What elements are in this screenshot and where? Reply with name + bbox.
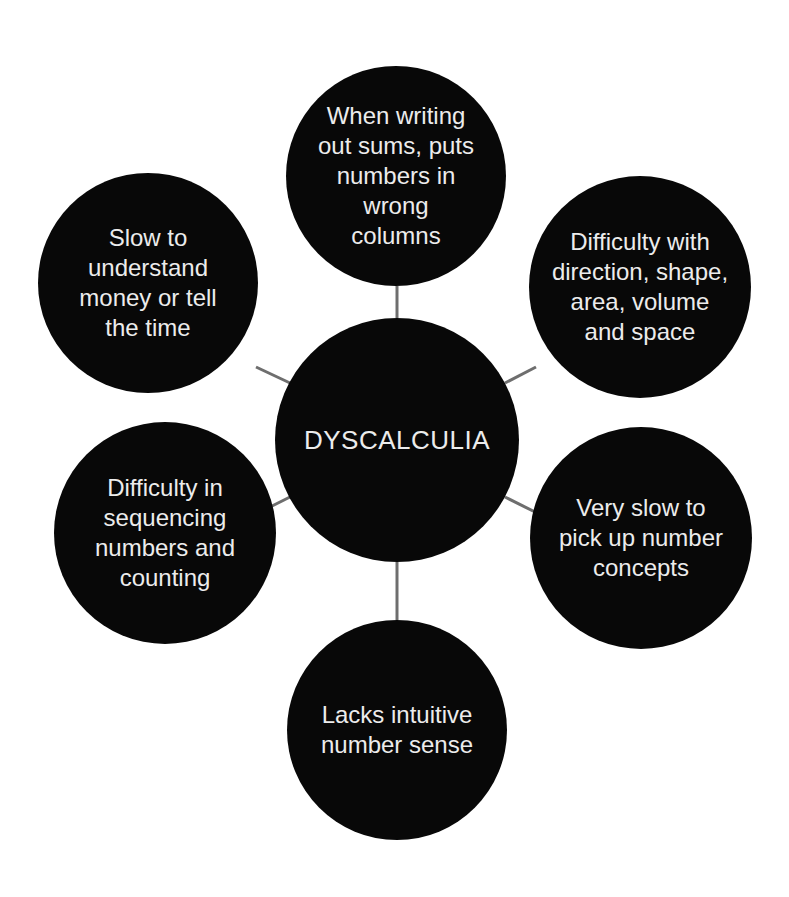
center-node-dyscalculia: DYSCALCULIA <box>275 318 519 562</box>
node-wrong-columns: When writing out sums, puts numbers in w… <box>286 66 506 286</box>
node-label: Lacks intuitive number sense <box>321 700 473 760</box>
node-label: Very slow to pick up number concepts <box>559 493 723 583</box>
node-sequencing-counting: Difficulty in sequencing numbers and cou… <box>54 422 276 644</box>
node-label: Slow to understand money or tell the tim… <box>79 223 216 343</box>
connector-upper-left <box>256 367 290 383</box>
node-number-sense: Lacks intuitive number sense <box>287 620 507 840</box>
center-node-label: DYSCALCULIA <box>304 425 490 455</box>
node-label: Difficulty with direction, shape, area, … <box>552 227 728 347</box>
node-direction-shape-area: Difficulty with direction, shape, area, … <box>529 176 751 398</box>
node-label: When writing out sums, puts numbers in w… <box>318 101 474 251</box>
dyscalculia-mind-map: DYSCALCULIA When writing out sums, puts … <box>0 0 789 897</box>
node-money-time: Slow to understand money or tell the tim… <box>38 173 258 393</box>
node-label: Difficulty in sequencing numbers and cou… <box>95 473 235 593</box>
node-slow-number-concepts: Very slow to pick up number concepts <box>530 427 752 649</box>
connector-upper-right <box>505 367 536 383</box>
